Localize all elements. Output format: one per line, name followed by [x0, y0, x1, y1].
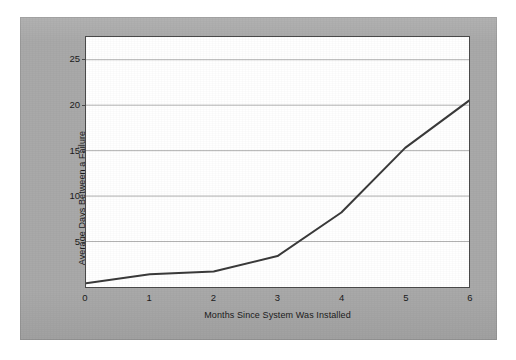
x-tick-label: 5 [394, 292, 418, 304]
x-tick-label: 6 [458, 292, 482, 304]
plot-area [85, 36, 470, 288]
y-tick-mark [82, 243, 86, 244]
x-tick-label: 4 [330, 292, 354, 304]
y-tick-mark [82, 151, 86, 152]
x-tick-label: 3 [266, 292, 290, 304]
data-series-line [86, 101, 469, 284]
x-axis-title: Months Since System Was Installed [85, 310, 470, 320]
chart-svg [86, 37, 469, 287]
y-tick-mark [82, 197, 86, 198]
x-tick-label: 2 [201, 292, 225, 304]
y-tick-label: 25 [54, 54, 80, 64]
figure-canvas: 510152025 Average Days Between a Failure… [0, 0, 516, 360]
y-tick-mark [82, 105, 86, 106]
grid-lines [86, 60, 469, 242]
y-axis-title-wrapper: Average Days Between a Failure [38, 36, 54, 288]
y-tick-mark [82, 59, 86, 60]
x-tick-label: 1 [137, 292, 161, 304]
x-axis-tick-labels: 0123456 [85, 292, 470, 306]
x-tick-label: 0 [73, 292, 97, 304]
